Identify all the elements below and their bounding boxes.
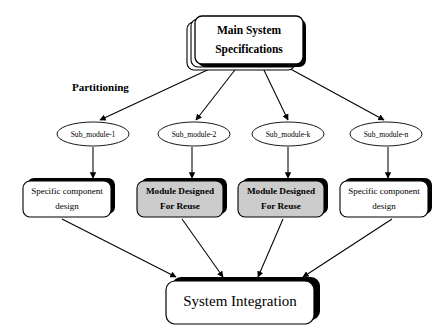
- edge-box2-to-integration: [182, 219, 223, 277]
- node-specific-component-design-2[interactable]: Specific component design: [340, 178, 432, 217]
- box4-label-line1: Specific component: [348, 186, 420, 196]
- node-module-designed-for-reuse-1[interactable]: Module Designed For Reuse: [137, 178, 227, 217]
- node-sub-module-n[interactable]: Sub_module-n: [350, 122, 422, 146]
- box3-label-line2: For Reuse: [261, 201, 301, 211]
- sub-module-k-label: Sub_module-k: [266, 130, 311, 139]
- sub-module-1-label: Sub_module-1: [71, 130, 116, 139]
- box1-label-line1: Specific component: [31, 186, 103, 196]
- box3-label-line1: Module Designed: [247, 186, 315, 196]
- top-box-label-line2: Specifications: [215, 43, 283, 56]
- edge-box4-to-integration: [303, 219, 392, 277]
- top-box-label-line1: Main System: [217, 24, 282, 37]
- sub-module-n-label: Sub_module-n: [364, 130, 409, 139]
- box1-label-line2: design: [55, 201, 79, 211]
- node-system-integration[interactable]: System Integration: [166, 277, 320, 324]
- edge-box1-to-integration: [62, 219, 176, 277]
- edge-spec-to-subk: [262, 66, 288, 120]
- box4-label-line2: design: [372, 201, 396, 211]
- edge-box3-to-integration: [258, 219, 283, 277]
- box2-label-line1: Module Designed: [146, 186, 214, 196]
- edge-group-boxes-to-integration: [62, 219, 392, 277]
- diagram-canvas: Main System Specifications Partitioning …: [0, 0, 445, 333]
- box2-label-line2: For Reuse: [160, 201, 200, 211]
- node-sub-module-k[interactable]: Sub_module-k: [252, 122, 324, 146]
- node-specific-component-design-1[interactable]: Specific component design: [23, 178, 115, 217]
- system-partitioning-diagram: Main System Specifications Partitioning …: [0, 0, 445, 333]
- node-sub-module-1[interactable]: Sub_module-1: [57, 122, 129, 146]
- edge-group-submodules-to-boxes: [93, 147, 388, 178]
- edge-spec-to-sub2: [196, 66, 238, 120]
- partitioning-label: Partitioning: [72, 81, 129, 93]
- node-main-system-specifications[interactable]: Main System Specifications: [187, 16, 306, 70]
- sub-module-2-label: Sub_module-2: [172, 130, 217, 139]
- edge-spec-to-sub1: [100, 66, 216, 120]
- node-sub-module-2[interactable]: Sub_module-2: [158, 122, 230, 146]
- node-module-designed-for-reuse-2[interactable]: Module Designed For Reuse: [238, 178, 328, 217]
- integration-box-label: System Integration: [183, 293, 297, 309]
- edge-spec-to-subn: [285, 66, 384, 120]
- edge-group-spec-to-submodules: [100, 66, 384, 120]
